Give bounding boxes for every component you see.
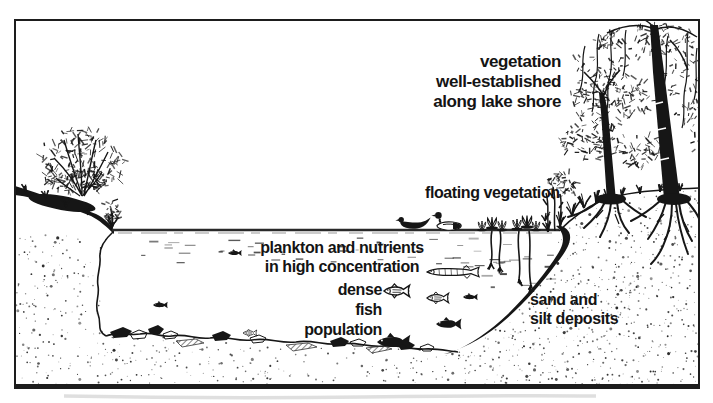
label-dense-fish-population: dense fish population: [304, 280, 382, 340]
lake-succession-diagram: vegetation well-established along lake s…: [0, 0, 713, 403]
fish-icon: [463, 293, 478, 300]
fish-icon: [153, 301, 168, 308]
tree-roots-icon: [568, 193, 700, 264]
fish-icon: [384, 284, 409, 298]
lake-illustration: [0, 0, 713, 403]
label-plankton-nutrients: plankton and nutrients in high concentra…: [238, 238, 446, 276]
fish-icon: [427, 292, 449, 304]
duck-icon: [431, 212, 461, 230]
fish-icon: [243, 329, 257, 337]
duck-icon: [395, 217, 430, 229]
label-sand-silt-deposits: sand and silt deposits: [530, 290, 618, 328]
left-shore: [15, 127, 129, 336]
shore-trees: [547, 17, 711, 264]
fish-icon: [436, 317, 461, 330]
bank-face: [97, 232, 113, 336]
shrub-icon: [36, 127, 128, 195]
figure-frame: [14, 20, 700, 398]
label-floating-vegetation: floating vegetation: [425, 184, 560, 202]
floating-vegetation-icon: [477, 216, 541, 293]
label-shore-vegetation: vegetation well-established along lake s…: [433, 52, 561, 112]
